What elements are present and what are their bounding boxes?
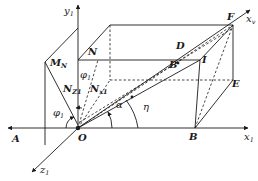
point-label-B-bottom: B — [189, 132, 197, 142]
angle-label-eta: η — [143, 102, 149, 112]
point-label-I: I — [202, 55, 207, 65]
axis-label-y1: y1 — [64, 6, 74, 18]
angle-label-alpha: α — [116, 100, 123, 110]
dashed-O-D — [80, 28, 233, 122]
angle-label-phi1-upper: φ1 — [80, 70, 91, 82]
point-label-E: E — [232, 79, 240, 89]
point-label-NX1: Nx1 — [90, 84, 108, 96]
point-label-A: A — [12, 134, 20, 144]
dashed-B-F — [195, 25, 233, 128]
point-label-NZ1: NZ1 — [63, 84, 81, 96]
axis-label-x1: x1 — [244, 132, 254, 144]
point-label-MN: MN — [50, 58, 67, 70]
eta-arc — [126, 100, 138, 128]
box-front-right-vertical — [195, 60, 200, 128]
point-label-O: O — [78, 133, 87, 143]
point-label-D: D — [176, 41, 185, 51]
angle-label-phi1-lower: φ1 — [53, 108, 64, 120]
dashed-O-F-upper — [78, 25, 233, 128]
xv-axis — [78, 10, 250, 128]
point-O-marker — [76, 126, 80, 130]
point-B-mid-marker — [131, 96, 134, 99]
z1-axis — [32, 128, 78, 172]
axis-label-z1: z1 — [40, 165, 49, 177]
point-label-N: N — [88, 47, 97, 57]
axis-label-xv: xv — [246, 14, 255, 26]
alpha-arc — [108, 112, 112, 128]
box-bottom-right-slant — [195, 80, 233, 128]
geometry-diagram — [0, 0, 258, 181]
point-label-F: F — [227, 12, 234, 22]
point-label-B-mid: B — [169, 60, 177, 70]
phi1-lower-arc — [66, 117, 74, 128]
